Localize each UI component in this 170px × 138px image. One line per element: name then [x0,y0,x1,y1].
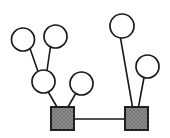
edge-c2-c3 [47,47,51,71]
graph-node-circle-c5[interactable] [110,14,134,38]
edge-c5-s2 [121,38,133,107]
edge-c6-s2 [139,78,145,108]
graph-node-circle-c4[interactable] [70,72,93,95]
edge-c3-s1 [48,92,57,108]
edge-c1-c3 [30,49,38,72]
graph-node-circle-c1[interactable] [12,28,35,51]
graph-diagram-canvas [0,0,170,138]
graph-node-circle-c2[interactable] [44,25,67,48]
node-layer [12,14,160,130]
graph-node-circle-c6[interactable] [136,55,159,78]
edge-c4-s1 [68,93,76,107]
graph-node-square-s2[interactable] [125,107,148,130]
graph-node-circle-c3[interactable] [32,70,55,93]
graph-node-square-s1[interactable] [51,107,74,130]
graph-diagram-svg [0,0,170,138]
